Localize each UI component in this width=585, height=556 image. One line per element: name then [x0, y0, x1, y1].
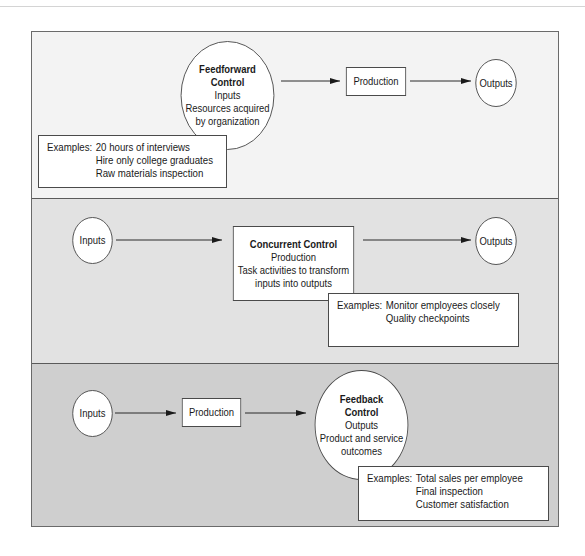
outputs-label-1: Outputs: [479, 77, 512, 90]
concurrent-line1: Production: [271, 251, 316, 264]
inputs-label-2: Inputs: [80, 234, 106, 247]
top-divider-line: [0, 6, 585, 7]
inputs-label-3: Inputs: [80, 407, 106, 420]
outputs-circle-2: Outputs: [475, 217, 516, 265]
feedback-line1: Outputs: [345, 419, 378, 432]
example-item: 20 hours of interviews: [96, 141, 213, 154]
examples-box-feedforward: Examples: 20 hours of interviews Hire on…: [38, 135, 227, 188]
production-box-3: Production: [182, 398, 241, 427]
feedforward-line3: by organization: [195, 115, 259, 128]
inputs-circle-3: Inputs: [72, 390, 112, 437]
feedforward-title-line2: Control: [211, 76, 245, 89]
example-item: Quality checkpoints: [386, 312, 500, 325]
example-item: Customer satisfaction: [416, 498, 523, 511]
concurrent-line3: inputs into outputs: [255, 277, 332, 290]
outputs-circle-1: Outputs: [475, 59, 516, 107]
production-label-3: Production: [189, 406, 234, 419]
examples-label-2: Examples:: [337, 299, 382, 341]
example-item: Total sales per employee: [416, 472, 523, 485]
inputs-circle-2: Inputs: [72, 217, 112, 264]
concurrent-title: Concurrent Control: [250, 238, 337, 251]
examples-box-feedback: Examples: Total sales per employee Final…: [358, 466, 549, 521]
feedback-title-line1: Feedback: [340, 393, 384, 406]
concurrent-control-box: Concurrent Control Production Task activ…: [233, 226, 354, 301]
feedback-title-line2: Control: [345, 406, 379, 419]
example-item: Raw materials inspection: [96, 167, 213, 180]
example-item: Final inspection: [416, 485, 523, 498]
examples-label-3: Examples:: [367, 472, 412, 515]
example-item: Hire only college graduates: [96, 154, 213, 167]
feedforward-line1: Inputs: [215, 89, 241, 102]
feedforward-title-line1: Feedforward: [199, 63, 256, 76]
examples-label-1: Examples:: [47, 141, 92, 182]
feedforward-line2: Resources acquired: [185, 102, 269, 115]
feedback-line3: outcomes: [341, 445, 382, 458]
production-box-1: Production: [346, 67, 406, 96]
feedforward-control-node: Feedforward Control Inputs Resources acq…: [181, 41, 275, 150]
outputs-label-2: Outputs: [479, 235, 512, 248]
feedback-line2: Product and service: [320, 432, 404, 445]
examples-box-concurrent: Examples: Monitor employees closely Qual…: [328, 293, 519, 347]
production-label-1: Production: [353, 75, 398, 88]
example-item: Monitor employees closely: [386, 299, 500, 312]
feedback-control-node: Feedback Control Outputs Product and ser…: [315, 370, 409, 480]
concurrent-line2: Task activities to transform: [238, 264, 349, 277]
